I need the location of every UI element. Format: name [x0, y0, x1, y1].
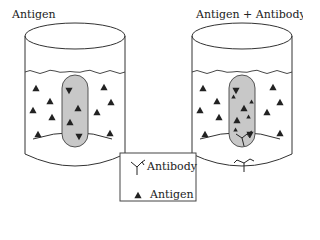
beaker-rim	[25, 23, 125, 49]
left-beaker	[25, 23, 125, 166]
beaker-rim	[192, 23, 292, 49]
liquid-surface	[192, 70, 292, 73]
liquid-surface	[25, 70, 125, 73]
legend-antigen-label: Antigen	[150, 188, 194, 201]
legend-antibody-label: Antibody	[147, 160, 197, 173]
right-beaker	[192, 23, 292, 172]
